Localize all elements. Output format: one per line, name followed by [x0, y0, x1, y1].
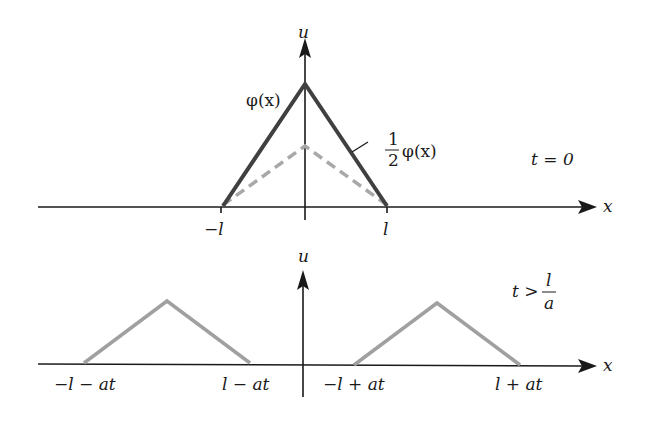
right-wave — [354, 303, 520, 365]
top-x-label: x — [603, 196, 613, 216]
l-over-a-denominator: a — [544, 293, 554, 313]
bottom-panel: u x t > l a −l − at l − at −l + at l + a… — [38, 246, 613, 397]
half-denominator: 2 — [388, 150, 399, 170]
half-numerator: 1 — [388, 129, 399, 149]
top-u-label: u — [298, 22, 309, 42]
minus-l-label: −l — [204, 219, 224, 239]
bottom-x-label: x — [603, 355, 613, 375]
wave-diagram: u x φ(x) 1 2 φ(x) t = 0 −l l u x t > l a… — [0, 0, 653, 424]
half-phi-leader — [352, 142, 368, 152]
bottom-x-axis — [38, 364, 585, 366]
minus-l-minus-at-label: −l − at — [54, 374, 116, 394]
half-phi-label: φ(x) — [402, 141, 437, 161]
l-label: l — [383, 219, 388, 239]
phi-label: φ(x) — [246, 90, 281, 110]
l-plus-at-label: l + at — [495, 374, 543, 394]
l-minus-at-label: l − at — [222, 374, 270, 394]
left-wave — [84, 301, 250, 363]
top-panel: u x φ(x) 1 2 φ(x) t = 0 −l l — [38, 22, 613, 239]
minus-l-plus-at-label: −l + at — [323, 374, 385, 394]
t-zero-label: t = 0 — [531, 149, 574, 169]
l-over-a-numerator: l — [546, 270, 551, 290]
bottom-u-label: u — [298, 246, 309, 266]
t-gt-label: t > — [512, 281, 538, 301]
